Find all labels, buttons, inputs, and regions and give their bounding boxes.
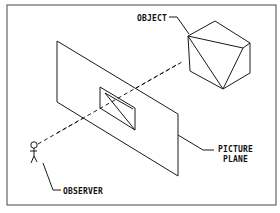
object-label: OBJECT bbox=[137, 14, 167, 24]
observer-leader bbox=[43, 163, 61, 190]
object-shape bbox=[188, 21, 250, 89]
observer-label: OBSERVER bbox=[63, 187, 103, 197]
picture-plane-label-line1: PICTURE bbox=[218, 145, 253, 155]
picture-plane-leader bbox=[178, 135, 214, 150]
perspective-diagram bbox=[0, 0, 280, 213]
picture-plane-label-line2: PLANE bbox=[218, 155, 253, 165]
observer-figure bbox=[30, 142, 37, 163]
object-leader bbox=[169, 17, 189, 34]
picture-plane-label: PICTURE PLANE bbox=[218, 145, 253, 165]
